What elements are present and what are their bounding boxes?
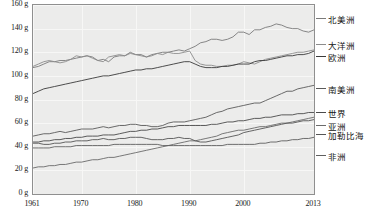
series-line: [33, 24, 314, 68]
series-line: [33, 117, 314, 168]
legend-leader-line: [316, 44, 326, 45]
y-axis-tick-label: 0 g: [0, 188, 28, 197]
legend-leader-line: [316, 112, 326, 113]
legend-leader-line: [316, 155, 326, 156]
y-axis-tick-label: 100 g: [0, 70, 28, 79]
gridline-vertical: [314, 5, 315, 194]
plot-area: [32, 4, 315, 195]
legend-label: 非洲: [328, 150, 346, 162]
x-axis-tick-label: 1970: [73, 199, 88, 208]
y-axis-tick-label: 120 g: [0, 46, 28, 55]
x-axis-tick-label: 2013: [305, 199, 320, 208]
x-axis-tick-label: 1990: [181, 199, 196, 208]
legend-label: 加勒比海: [328, 129, 364, 141]
legend-label: 大洋洲: [328, 39, 355, 51]
legend-label: 世界: [328, 107, 346, 119]
legend-label: 南美洲: [328, 83, 355, 95]
legend-leader-line: [316, 125, 326, 126]
y-axis-tick-label: 160 g: [0, 0, 28, 8]
y-axis-tick-label: 80 g: [0, 94, 28, 103]
gridline-horizontal: [33, 194, 314, 195]
x-axis-tick-label: 1980: [127, 199, 142, 208]
series-lines: [33, 5, 314, 194]
legend-leader-line: [316, 88, 326, 89]
y-axis-tick-label: 140 g: [0, 23, 28, 32]
line-chart: 0 g20 g40 g60 g80 g100 g120 g140 g160 g …: [0, 0, 370, 224]
series-line: [33, 85, 314, 136]
series-line: [33, 51, 314, 94]
series-line: [33, 120, 314, 145]
y-axis-tick-label: 20 g: [0, 164, 28, 173]
legend-leader-line: [316, 18, 326, 19]
x-axis-tick-label: 1961: [24, 199, 39, 208]
legend-leader-line: [316, 56, 326, 57]
legend-leader-line: [316, 134, 326, 135]
legend-label: 北美洲: [328, 13, 355, 25]
y-axis-tick-label: 40 g: [0, 141, 28, 150]
x-axis-tick-label: 2000: [235, 199, 250, 208]
y-axis-tick-label: 60 g: [0, 117, 28, 126]
series-line: [33, 112, 314, 142]
legend-label: 欧洲: [328, 51, 346, 63]
